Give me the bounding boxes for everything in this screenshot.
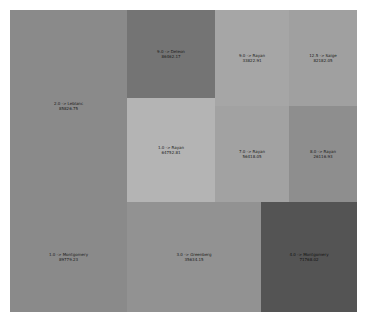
treemap-cell[interactable]: 4.0 -> Montgomery71768.02	[261, 202, 357, 312]
cell-value: 89779.23	[59, 257, 78, 262]
treemap-cell[interactable]: 2.0 -> Leblanc85826.75	[10, 10, 127, 202]
cell-value: 86462.17	[161, 54, 180, 59]
treemap-cell[interactable]: 12.5 -> Saige82182.05	[289, 10, 357, 106]
treemap-cell[interactable]: 9.0 -> Deleon86462.17	[127, 10, 215, 98]
treemap-cell[interactable]: 7.0 -> Rayan56418.05	[215, 106, 289, 202]
cell-value: 64752.81	[161, 150, 180, 155]
cell-value: 56418.05	[242, 154, 261, 159]
cell-value: 33822.91	[242, 58, 261, 63]
cell-value: 82182.05	[313, 58, 332, 63]
cell-value: 26116.93	[313, 154, 332, 159]
cell-value: 35634.15	[184, 257, 203, 262]
cell-value: 85826.75	[59, 106, 78, 111]
treemap-cell[interactable]: 9.0 -> Rayan33822.91	[215, 10, 289, 106]
cell-value: 71768.02	[299, 257, 318, 262]
treemap: 2.0 -> Leblanc85826.75 9.0 -> Deleon8646…	[10, 10, 357, 312]
treemap-cell[interactable]: 1.0 -> Rayan64752.81	[127, 98, 215, 202]
treemap-cell[interactable]: 8.0 -> Rayan26116.93	[289, 106, 357, 202]
treemap-cell[interactable]: 1.0 -> Montgomery89779.23	[10, 202, 127, 312]
treemap-cell[interactable]: 3.0 -> Greenberg35634.15	[127, 202, 261, 312]
